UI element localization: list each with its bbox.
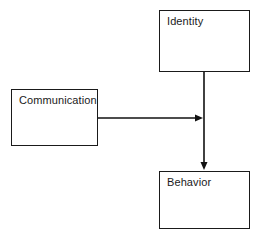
- node-identity-label: Identity: [167, 15, 203, 28]
- arrowhead-down-icon: [201, 162, 208, 170]
- edge-communication-to-behavior: [98, 115, 203, 122]
- node-identity[interactable]: Identity: [159, 10, 250, 72]
- edge-identity-to-behavior: [201, 72, 208, 170]
- node-communication-label: Communication: [19, 94, 97, 107]
- node-behavior[interactable]: Behavior: [159, 171, 250, 229]
- node-communication[interactable]: Communication: [11, 89, 98, 146]
- arrowhead-right-icon: [195, 115, 203, 122]
- diagram-canvas: Identity Communication Behavior: [0, 0, 260, 238]
- node-behavior-label: Behavior: [167, 176, 211, 189]
